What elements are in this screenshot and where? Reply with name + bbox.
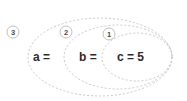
scope-diagram: 3 2 1 a = b = c = 5 — [0, 0, 187, 101]
expression-term-a: a = — [33, 50, 50, 64]
expression-term-b: b = — [79, 50, 97, 64]
badge-label-2: 2 — [64, 28, 68, 37]
diagram-canvas: 3 2 1 a = b = c = 5 — [0, 0, 187, 101]
expression-term-c: c = 5 — [117, 50, 144, 64]
badge-group-1: 1 — [103, 28, 115, 40]
badge-label-3: 3 — [11, 28, 15, 37]
badge-group-3: 3 — [7, 26, 19, 38]
badge-group-2: 2 — [60, 26, 72, 38]
badge-label-1: 1 — [107, 30, 111, 39]
